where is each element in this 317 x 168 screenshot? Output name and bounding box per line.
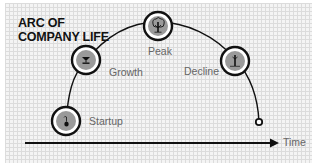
stage-label-growth: Growth bbox=[109, 66, 143, 78]
stage-node-growth bbox=[72, 46, 100, 74]
stage-label-startup: Startup bbox=[89, 115, 123, 127]
endpoint-marker bbox=[256, 119, 262, 125]
time-axis-arrow-icon bbox=[270, 139, 279, 148]
arc-diagram bbox=[0, 0, 317, 168]
time-axis-label: Time bbox=[283, 136, 306, 148]
stage-node-startup bbox=[52, 107, 80, 135]
stage-label-peak: Peak bbox=[148, 45, 172, 57]
stage-node-decline bbox=[221, 47, 249, 75]
stage-node-peak bbox=[144, 12, 172, 40]
stage-label-decline: Decline bbox=[184, 65, 219, 77]
